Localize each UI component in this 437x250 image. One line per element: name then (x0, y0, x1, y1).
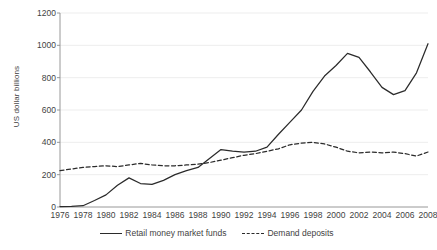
series-line-1 (60, 44, 428, 207)
x-axis-tick-label: 2006 (396, 210, 415, 220)
x-axis-tick-label: 2000 (327, 210, 346, 220)
x-axis-tick-label: 1984 (143, 210, 162, 220)
x-axis-tick-label: 1996 (281, 210, 300, 220)
x-axis-tick-label: 1982 (120, 210, 139, 220)
x-axis-tick-label: 1986 (166, 210, 185, 220)
legend-label: Demand deposits (267, 228, 333, 238)
legend-item-2[interactable]: Demand deposits (242, 228, 333, 238)
x-axis-tick-label: 1994 (258, 210, 277, 220)
x-axis-tick-label: 2002 (350, 210, 369, 220)
legend-swatch-icon (100, 230, 122, 237)
series-line-2 (60, 142, 428, 170)
legend-label: Retail money market funds (125, 228, 226, 238)
x-axis-tick-label: 1980 (97, 210, 116, 220)
x-axis-tick-label: 2008 (419, 210, 437, 220)
x-axis-tick-label: 1988 (189, 210, 208, 220)
legend-item-1[interactable]: Retail money market funds (100, 228, 226, 238)
x-axis-tick-label: 1990 (212, 210, 231, 220)
x-axis-tick-label: 1976 (51, 210, 70, 220)
x-axis-tick-label: 2004 (373, 210, 392, 220)
legend-swatch-icon (242, 230, 264, 237)
x-axis-tick-label: 1998 (304, 210, 323, 220)
x-axis-tick-label: 1978 (74, 210, 93, 220)
x-axis-tick-label: 1992 (235, 210, 254, 220)
chart-legend: Retail money market fundsDemand deposits (0, 228, 434, 238)
